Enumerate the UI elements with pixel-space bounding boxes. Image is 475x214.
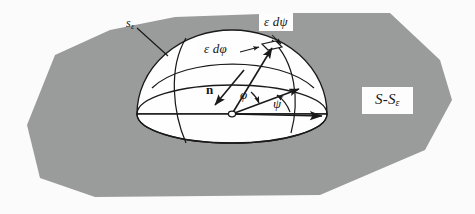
label-s-epsilon-subscript: ε <box>131 21 135 31</box>
label-s-minus-s-epsilon: S-Sε <box>362 87 413 114</box>
origin-point-marker <box>228 111 235 117</box>
label-epsilon-d-psi: ε dψ <box>259 13 293 31</box>
label-azimuth-angle-psi: ψ <box>273 97 281 110</box>
figure-root: sε ε dψ ε dφ S-Sε n φ ψ <box>0 0 475 214</box>
label-normal-vector: n <box>206 83 213 96</box>
label-polar-angle-phi: φ <box>240 88 247 101</box>
label-epsilon-d-phi: ε dφ <box>199 40 232 58</box>
label-s-epsilon: sε <box>126 17 134 30</box>
label-s-minus-s-epsilon-subscript: ε <box>396 97 400 108</box>
label-s-minus-s-epsilon-base: S-S <box>375 91 396 107</box>
